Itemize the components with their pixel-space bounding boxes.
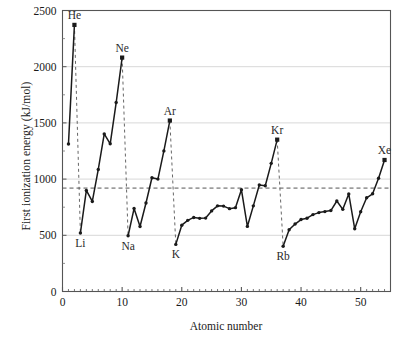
data-point-marker bbox=[126, 234, 129, 237]
element-label-Li: Li bbox=[75, 237, 85, 249]
y-tick-label: 2500 bbox=[34, 5, 57, 17]
data-point-marker bbox=[162, 149, 165, 152]
data-point-marker bbox=[258, 183, 261, 186]
element-label-Ar: Ar bbox=[164, 105, 176, 117]
data-point-marker bbox=[222, 204, 225, 207]
y-axis-title: First ionization energy (kJ/mol) bbox=[20, 46, 32, 266]
gridlines-group bbox=[63, 11, 391, 236]
element-label-He: He bbox=[68, 9, 81, 21]
data-point-marker bbox=[156, 177, 159, 180]
series-segment bbox=[283, 160, 384, 246]
data-point-marker bbox=[174, 243, 177, 246]
data-point-marker bbox=[299, 218, 302, 221]
y-tick-label: 500 bbox=[39, 229, 57, 241]
x-tick-label: 20 bbox=[176, 296, 188, 308]
chart-canvas: 05001000150020002500 01020304050 HeNeArK… bbox=[0, 0, 409, 344]
data-point-marker bbox=[72, 23, 76, 27]
data-point-marker bbox=[371, 192, 374, 195]
data-point-marker bbox=[347, 192, 350, 195]
drop-line bbox=[170, 121, 176, 245]
data-point-marker bbox=[180, 223, 183, 226]
data-point-marker bbox=[365, 196, 368, 199]
drop-line bbox=[122, 58, 128, 236]
data-point-markers bbox=[67, 23, 387, 248]
data-point-marker bbox=[103, 132, 106, 135]
data-point-marker bbox=[150, 176, 153, 179]
x-tick-label: 40 bbox=[295, 296, 307, 308]
plot-frame bbox=[63, 11, 391, 292]
data-point-marker bbox=[120, 55, 124, 59]
data-point-marker bbox=[382, 158, 386, 162]
element-label-Ne: Ne bbox=[115, 42, 128, 54]
element-annotations: HeNeArKrXeLiNaKRb bbox=[68, 9, 392, 262]
data-point-marker bbox=[91, 200, 94, 203]
x-tick-label: 50 bbox=[355, 296, 367, 308]
data-point-marker bbox=[246, 225, 249, 228]
x-axis-title: Atomic number bbox=[62, 320, 390, 332]
element-label-Na: Na bbox=[121, 240, 134, 252]
data-point-marker bbox=[293, 222, 296, 225]
data-point-marker bbox=[353, 227, 356, 230]
data-point-marker bbox=[252, 204, 255, 207]
data-point-marker bbox=[341, 208, 344, 211]
data-point-marker bbox=[114, 101, 117, 104]
data-point-marker bbox=[132, 207, 135, 210]
data-point-marker bbox=[228, 207, 231, 210]
series-segment bbox=[80, 58, 122, 233]
drop-line bbox=[74, 25, 80, 233]
data-point-marker bbox=[198, 217, 201, 220]
data-point-marker bbox=[305, 217, 308, 220]
data-point-marker bbox=[216, 204, 219, 207]
x-tick-label: 10 bbox=[116, 296, 128, 308]
data-point-marker bbox=[204, 216, 207, 219]
y-tick-label: 2000 bbox=[34, 61, 57, 73]
data-point-marker bbox=[317, 211, 320, 214]
data-point-marker bbox=[97, 168, 100, 171]
series-segment bbox=[128, 121, 170, 236]
x-tick-label: 0 bbox=[60, 296, 66, 308]
y-tick-label: 0 bbox=[51, 286, 57, 298]
data-point-marker bbox=[270, 162, 273, 165]
data-point-marker bbox=[287, 228, 290, 231]
axes-frame bbox=[63, 11, 391, 292]
element-label-K: K bbox=[172, 248, 181, 260]
data-point-marker bbox=[144, 201, 147, 204]
data-point-marker bbox=[210, 209, 213, 212]
element-label-Xe: Xe bbox=[378, 144, 391, 156]
data-point-marker bbox=[335, 199, 338, 202]
series-segment bbox=[68, 25, 74, 144]
y-axis-tick-labels: 05001000150020002500 bbox=[34, 5, 57, 298]
data-point-marker bbox=[79, 231, 82, 234]
data-point-marker bbox=[168, 118, 172, 122]
data-point-marker bbox=[67, 142, 70, 145]
element-label-Kr: Kr bbox=[271, 124, 283, 136]
data-point-marker bbox=[186, 219, 189, 222]
y-tick-label: 1000 bbox=[34, 173, 57, 185]
data-point-marker bbox=[281, 245, 284, 248]
data-point-marker bbox=[329, 209, 332, 212]
data-point-marker bbox=[377, 177, 380, 180]
data-point-marker bbox=[234, 206, 237, 209]
data-point-marker bbox=[311, 213, 314, 216]
y-tick-label: 1500 bbox=[34, 117, 57, 129]
data-point-marker bbox=[275, 138, 279, 142]
x-axis-ticks bbox=[63, 11, 391, 292]
data-line-series bbox=[68, 25, 384, 246]
element-label-Rb: Rb bbox=[276, 250, 290, 262]
data-point-marker bbox=[359, 210, 362, 213]
drop-line bbox=[277, 140, 283, 247]
data-point-marker bbox=[264, 184, 267, 187]
data-point-marker bbox=[85, 189, 88, 192]
data-point-marker bbox=[323, 210, 326, 213]
data-point-marker bbox=[192, 216, 195, 219]
x-axis-tick-labels: 01020304050 bbox=[60, 296, 367, 308]
ionization-energy-chart: 05001000150020002500 01020304050 HeNeArK… bbox=[0, 0, 409, 344]
series-segment bbox=[176, 140, 277, 245]
x-tick-label: 30 bbox=[236, 296, 248, 308]
data-point-marker bbox=[138, 225, 141, 228]
data-point-marker bbox=[109, 142, 112, 145]
data-point-marker bbox=[240, 188, 243, 191]
